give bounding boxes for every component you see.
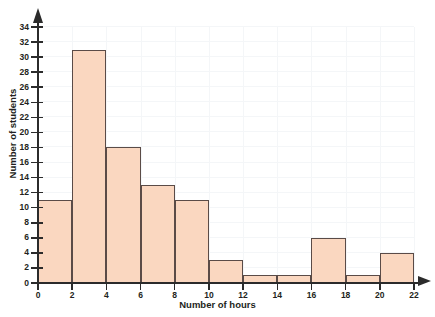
y-tick-mark — [31, 26, 43, 28]
y-tick-mark — [31, 102, 43, 104]
y-tick-mark — [31, 192, 43, 194]
y-tick-label: 6 — [0, 233, 29, 242]
x-tick-mark — [37, 283, 39, 290]
x-tick-mark — [379, 283, 381, 290]
y-tick-label: 0 — [0, 279, 29, 288]
y-tick-label: 8 — [0, 218, 29, 227]
x-axis-line — [37, 282, 419, 284]
y-tick-label: 2 — [0, 263, 29, 272]
y-tick-mark — [31, 56, 43, 58]
y-tick-label: 34 — [0, 23, 29, 32]
y-tick-mark — [31, 117, 43, 119]
gridline-vertical — [277, 27, 278, 283]
x-axis-title: Number of hours — [0, 299, 435, 310]
y-tick-mark — [31, 147, 43, 149]
y-tick-label: 32 — [0, 38, 29, 47]
y-tick-mark — [31, 252, 43, 254]
x-tick-mark — [140, 283, 142, 290]
y-tick-mark — [31, 237, 43, 239]
x-tick-mark — [174, 283, 176, 290]
histogram-bar — [311, 238, 345, 283]
x-axis-arrow-icon — [418, 276, 431, 286]
y-tick-mark — [31, 71, 43, 73]
y-tick-mark — [31, 86, 43, 88]
y-axis-arrow-icon — [33, 8, 43, 23]
y-tick-mark — [31, 177, 43, 179]
histogram-bar — [38, 200, 72, 283]
gridline-vertical — [243, 27, 244, 283]
y-tick-mark — [31, 267, 43, 269]
gridline-horizontal — [38, 41, 414, 42]
y-axis-title: Number of students — [7, 59, 18, 209]
histogram-bar — [209, 260, 243, 283]
y-tick-mark — [31, 41, 43, 43]
histogram-bar — [175, 200, 209, 283]
histogram-bar — [72, 50, 106, 283]
gridline-vertical — [380, 27, 381, 283]
x-tick-mark — [242, 283, 244, 290]
y-tick-mark — [31, 162, 43, 164]
x-tick-mark — [345, 283, 347, 290]
gridline-vertical — [346, 27, 347, 283]
gridline-vertical — [414, 27, 415, 283]
histogram-bar — [106, 147, 140, 283]
y-tick-label: 4 — [0, 248, 29, 257]
x-tick-mark — [413, 283, 415, 290]
y-tick-mark — [31, 207, 43, 209]
gridline-horizontal — [38, 26, 414, 27]
plot-area — [38, 27, 414, 283]
x-tick-mark — [106, 283, 108, 290]
y-tick-mark — [31, 222, 43, 224]
histogram-chart: 0246810121416182022242628303234 02468101… — [0, 0, 435, 317]
x-tick-mark — [71, 283, 73, 290]
histogram-bar — [141, 185, 175, 283]
gridline-vertical — [209, 27, 210, 283]
y-axis-line — [37, 22, 39, 284]
x-tick-mark — [208, 283, 210, 290]
y-tick-mark — [31, 132, 43, 134]
x-tick-mark — [311, 283, 313, 290]
histogram-bar — [380, 253, 414, 283]
x-tick-mark — [277, 283, 279, 290]
